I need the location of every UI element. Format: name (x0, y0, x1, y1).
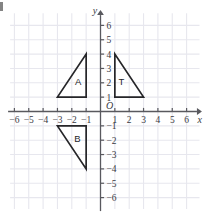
graph-canvas: −6−5−4−3−2−1123456654321−1−2−3−4−5−6 ATB… (0, 0, 213, 212)
x-tick-label: −1 (81, 115, 91, 125)
y-tick-label: 6 (107, 21, 112, 31)
x-tick-label: −5 (24, 115, 34, 125)
x-tick-label: −2 (67, 115, 77, 125)
x-tick-label: 5 (170, 115, 175, 125)
x-tick-label: 3 (141, 115, 146, 125)
x-tick-label: −4 (38, 115, 48, 125)
triangle-label-a: A (75, 76, 82, 87)
y-tick-label: −1 (107, 121, 117, 131)
x-tick-label: 6 (184, 115, 189, 125)
y-tick-label: −4 (107, 164, 117, 174)
y-tick-label: 5 (107, 35, 112, 45)
y-tick-label: −2 (107, 136, 117, 146)
triangle-label-b: B (74, 133, 80, 144)
y-tick-label: 3 (107, 64, 112, 74)
y-tick-label: 4 (107, 50, 112, 60)
origin-label: O (106, 100, 113, 111)
x-axis-label: x (197, 114, 203, 125)
x-tick-label: −6 (9, 115, 19, 125)
coordinate-plane-figure: −6−5−4−3−2−1123456654321−1−2−3−4−5−6 ATB… (0, 0, 213, 212)
y-tick-label: −3 (107, 150, 117, 160)
y-tick-label: −5 (107, 179, 117, 189)
triangle-labels: ATB (74, 76, 124, 144)
x-tick-label: −3 (52, 115, 62, 125)
x-tick-label: 2 (127, 115, 132, 125)
x-tick-label: 4 (156, 115, 161, 125)
triangle-label-t: T (118, 76, 124, 87)
y-tick-label: −6 (107, 193, 117, 203)
y-tick-label: 2 (107, 78, 112, 88)
y-axis-label: y (92, 5, 98, 16)
